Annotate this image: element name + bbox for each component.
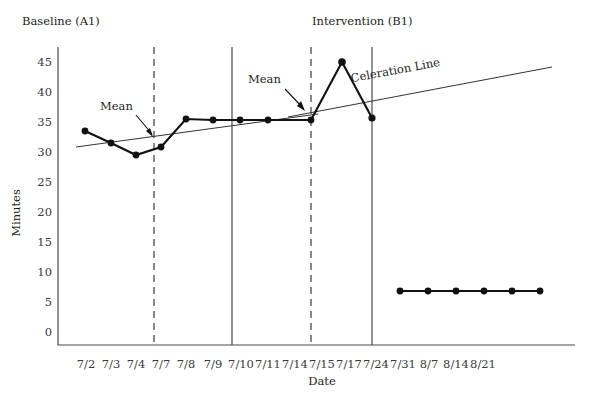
data-point-7-14 <box>338 58 346 66</box>
data-point-7-3 <box>108 140 115 147</box>
data-point-7-24 <box>425 288 432 295</box>
data-point-7-15 <box>368 114 375 121</box>
y-tick-40: 40 <box>37 85 52 99</box>
x-tick-15: 8/21 <box>470 357 496 371</box>
y-tick-30: 30 <box>37 145 52 159</box>
data-point-8-14 <box>509 288 516 295</box>
data-point-7-9 <box>210 117 217 124</box>
phase-header-intervention: Intervention (B1) <box>312 14 413 28</box>
x-tick-8: 7/14 <box>282 357 308 371</box>
x-tick-11: 7/24 <box>363 357 389 371</box>
phase-header-baseline: Baseline (A1) <box>22 14 100 28</box>
x-tick-7: 7/11 <box>255 357 281 371</box>
celeration-reference-line <box>288 67 552 117</box>
single-subject-design-chart: Baseline (A1) Intervention (B1) 45 40 35… <box>0 0 599 408</box>
data-point-7-10 <box>237 117 244 124</box>
data-series-baseline <box>85 119 311 155</box>
x-tick-9: 7/15 <box>309 357 335 371</box>
x-tick-12: 7/31 <box>390 357 416 371</box>
data-point-7-17 <box>397 288 404 295</box>
x-tick-13: 8/7 <box>420 357 439 371</box>
y-tick-15: 15 <box>37 235 52 249</box>
x-tick-4: 7/8 <box>177 357 196 371</box>
axis-lines <box>58 47 575 345</box>
y-axis-tick-labels: 45 40 35 30 25 20 15 10 5 0 <box>37 55 52 339</box>
data-point-8-21 <box>537 288 544 295</box>
data-point-7-4a <box>133 152 140 159</box>
data-point-7-8 <box>183 116 190 123</box>
data-point-7-31 <box>453 288 460 295</box>
x-tick-14: 8/14 <box>443 357 469 371</box>
x-axis-title: Date <box>308 374 336 388</box>
data-point-markers <box>82 58 544 294</box>
y-tick-35: 35 <box>37 115 52 129</box>
x-axis-tick-labels: 7/2 7/3 7/4 7/7 7/8 7/9 7/10 7/11 7/14 7… <box>77 357 496 371</box>
x-tick-6: 7/10 <box>228 357 254 371</box>
annotation-mean-left-label: Mean <box>100 99 133 113</box>
x-tick-2: 7/4 <box>127 357 146 371</box>
x-tick-10: 7/17 <box>336 357 362 371</box>
data-point-7-2 <box>82 128 89 135</box>
y-tick-25: 25 <box>37 175 52 189</box>
data-point-7-7 <box>158 144 165 151</box>
annotation-celeration-label: Celeration Line <box>350 55 441 85</box>
x-tick-0: 7/2 <box>77 357 96 371</box>
x-tick-1: 7/3 <box>102 357 121 371</box>
y-tick-45: 45 <box>37 55 52 69</box>
data-point-7-11b <box>308 117 315 124</box>
y-tick-20: 20 <box>37 205 52 219</box>
data-point-8-7 <box>481 288 488 295</box>
y-tick-0: 0 <box>45 325 52 339</box>
x-tick-3: 7/7 <box>152 357 171 371</box>
annotation-mean-right-label: Mean <box>248 72 281 86</box>
x-tick-5: 7/9 <box>204 357 223 371</box>
y-tick-10: 10 <box>37 265 52 279</box>
data-point-7-11 <box>265 117 272 124</box>
annotation-mean-left-arrowhead <box>146 128 153 137</box>
chart-canvas: Baseline (A1) Intervention (B1) 45 40 35… <box>0 0 599 408</box>
y-tick-5: 5 <box>45 295 52 309</box>
y-axis-title: Minutes <box>9 189 23 237</box>
